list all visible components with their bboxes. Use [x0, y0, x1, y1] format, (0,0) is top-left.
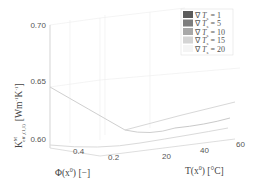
legend-swatch-icon [183, 11, 193, 18]
legend-swatch-icon [183, 37, 193, 44]
x-tick-40: 40 [200, 146, 209, 155]
surface-chart: 0.70 0.65 0.60 0.4 0.2 20 40 60 Φ(x0) [−… [0, 0, 259, 181]
z-axis-label: KMeff ,(1,1)[Wm-1K-1] [13, 83, 27, 148]
y-axis-label: Φ(x0) [−] [55, 167, 90, 179]
legend-swatch-icon [183, 45, 193, 52]
legend-swatch-icon [183, 20, 193, 27]
svg-text:KMeff ,(1,1)[Wm-1K-1]: KMeff ,(1,1)[Wm-1K-1] [13, 83, 27, 148]
x-tick-60: 60 [236, 140, 245, 149]
y-tick-04: 0.4 [73, 147, 85, 156]
x-axis-label: T(x0) [°C] [185, 165, 224, 177]
legend: ∇ Ts= 1 ∇ Ts= 5 ∇ Ts= 10 ∇ Ts= 15 ∇ Ts= … [181, 9, 233, 55]
svg-text:∇ Ts= 20: ∇ Ts= 20 [194, 45, 225, 55]
legend-swatch-icon [183, 28, 193, 35]
z-tick-060: 0.60 [30, 135, 46, 144]
x-tick-20: 20 [162, 152, 171, 161]
z-tick-070: 0.70 [30, 21, 46, 30]
surface-edges [50, 87, 235, 147]
z-tick-065: 0.65 [30, 77, 46, 86]
y-tick-02: 0.2 [108, 153, 120, 162]
